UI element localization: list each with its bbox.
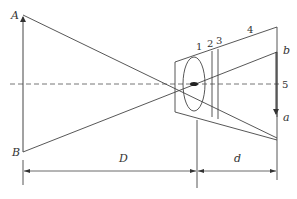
label-3: 3: [216, 35, 222, 46]
optical-center-node: [190, 82, 198, 86]
label-5: 5: [282, 79, 288, 90]
label-a: a: [283, 111, 290, 124]
ray-from-b: [23, 52, 277, 152]
dim-arrow-d-left: [198, 169, 204, 173]
label-b: b: [283, 44, 290, 57]
label-D: D: [118, 152, 128, 165]
dim-arrow-D-left: [24, 169, 30, 173]
optical-diagram: A B b a D d 1 2 3 4 5: [0, 0, 297, 199]
label-2: 2: [207, 38, 213, 49]
label-4: 4: [247, 24, 253, 35]
label-B: B: [11, 146, 20, 159]
label-d: d: [234, 152, 241, 165]
label-A: A: [10, 9, 19, 22]
ray-from-a: [23, 15, 277, 138]
label-1: 1: [196, 41, 202, 52]
